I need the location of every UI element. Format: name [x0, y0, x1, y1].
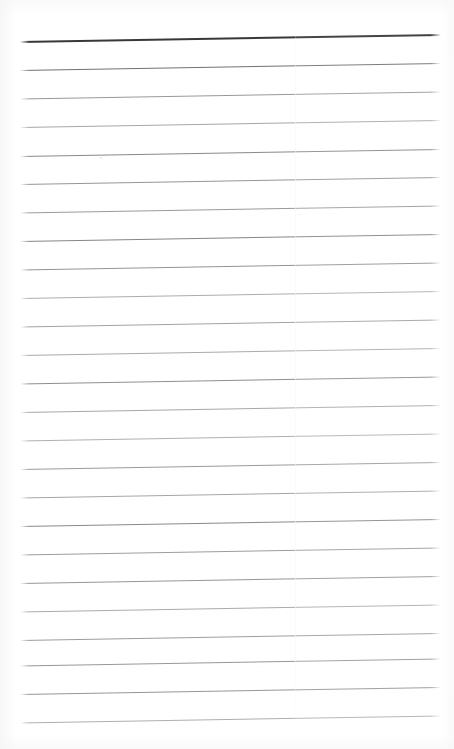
- scan-speck: [100, 157, 102, 159]
- ruled-line-ink: [20, 659, 441, 667]
- ruled-line-ink: [20, 491, 441, 499]
- ruled-line: [20, 491, 441, 500]
- ruled-line-ink: [20, 291, 441, 299]
- ruled-line-ink: [20, 92, 441, 100]
- ruled-line: [20, 177, 441, 186]
- ruled-lines-group: [0, 0, 454, 749]
- ruled-line-ink: [20, 320, 441, 328]
- ruled-line: [20, 149, 441, 158]
- ruled-line-ink: [20, 716, 441, 724]
- ruled-line: [20, 348, 441, 357]
- ruled-line-ink: [20, 434, 441, 442]
- ruled-line-ink: [20, 405, 441, 413]
- ruled-line: [20, 659, 441, 668]
- ruled-line: [20, 234, 441, 243]
- ruled-line: [20, 687, 441, 696]
- ruled-line-ink: [20, 63, 441, 71]
- ruled-line: [20, 716, 441, 725]
- ruled-line-ink: [20, 633, 441, 641]
- ruled-line: [20, 405, 441, 414]
- ruled-line-ink: [20, 120, 441, 128]
- ruled-line: [20, 63, 441, 72]
- ruled-line-ink: [20, 462, 441, 470]
- ruled-line-ink: [20, 234, 441, 242]
- scanned-page: [0, 0, 454, 749]
- ruled-line-ink: [20, 348, 441, 356]
- ruled-line: [20, 462, 441, 471]
- ruled-line: [20, 34, 441, 44]
- ruled-line: [20, 434, 441, 443]
- ruled-line-ink: [20, 34, 441, 43]
- ruled-line: [20, 377, 441, 386]
- ruled-line: [20, 206, 441, 215]
- ruled-line-ink: [20, 548, 441, 556]
- ruled-line: [20, 291, 441, 300]
- ruled-line-ink: [20, 206, 441, 214]
- ruled-line-ink: [20, 263, 441, 271]
- ruled-line: [20, 519, 441, 528]
- ruled-line-ink: [20, 605, 441, 613]
- ruled-line: [20, 605, 441, 614]
- ruled-line: [20, 320, 441, 329]
- scan-speck: [300, 214, 301, 215]
- ruled-line: [20, 548, 441, 557]
- scan-speck: [258, 666, 259, 667]
- ruled-line: [20, 92, 441, 101]
- ruled-line-ink: [20, 687, 441, 695]
- ruled-line: [20, 120, 441, 129]
- ruled-line-ink: [20, 576, 441, 584]
- ruled-line-ink: [20, 177, 441, 185]
- ruled-line: [20, 633, 441, 642]
- ruled-line: [20, 576, 441, 585]
- ruled-line-ink: [20, 149, 441, 157]
- ruled-line-ink: [20, 519, 441, 527]
- ruled-line: [20, 263, 441, 272]
- ruled-line-ink: [20, 377, 441, 385]
